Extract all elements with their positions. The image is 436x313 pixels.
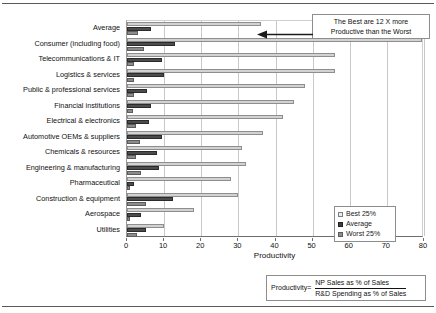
bar-average	[127, 58, 162, 62]
axis-tick-label: 10	[159, 241, 167, 250]
bar-worst	[127, 78, 134, 82]
axis-tick-label: 40	[270, 241, 278, 250]
bar-best	[127, 146, 242, 150]
bar-best	[127, 162, 246, 166]
bar-best	[127, 208, 194, 212]
footnote-prefix: Productivity=	[271, 283, 311, 293]
legend-label: Worst 25%	[346, 229, 380, 239]
bar-worst	[127, 186, 130, 190]
axis-tick-label: 0	[124, 241, 128, 250]
best-vs-worst-callout: The Best are 12 X more Productive than t…	[312, 14, 430, 39]
callout-line-1: The Best are 12 X more	[317, 17, 425, 27]
legend-label: Average	[346, 219, 372, 229]
bar-group	[127, 99, 422, 115]
bar-group	[127, 114, 422, 130]
legend-swatch-best	[338, 212, 343, 217]
bar-average	[127, 104, 151, 108]
bar-average	[127, 197, 173, 201]
bar-group	[127, 52, 422, 68]
bar-best	[127, 53, 335, 57]
category-label: Average	[93, 23, 120, 32]
bar-worst	[127, 202, 146, 206]
bar-average	[127, 42, 175, 46]
bar-worst	[127, 233, 137, 237]
footnote-denominator: R&D Spending as % of Sales	[315, 289, 406, 299]
category-label: Construction & equipment	[36, 194, 120, 203]
bar-worst	[127, 124, 136, 128]
bar-average	[127, 135, 162, 139]
bar-best	[127, 115, 283, 119]
category-label: Aerospace	[85, 209, 120, 218]
category-label: Consumer (including food)	[34, 39, 120, 48]
axis-tick-label: 70	[382, 241, 390, 250]
bar-worst	[127, 31, 138, 35]
legend-swatch-average	[338, 222, 343, 227]
gridline	[424, 21, 425, 236]
chart-legend: Best 25%AverageWorst 25%	[334, 206, 396, 242]
category-label: Financial institutions	[54, 101, 120, 110]
bar-worst	[127, 109, 133, 113]
bar-worst	[127, 171, 141, 175]
bar-group	[127, 130, 422, 146]
category-label: Engineering & manufacturing	[26, 163, 120, 172]
category-label: Automotive OEMs & suppliers	[23, 132, 120, 141]
bar-best	[127, 177, 231, 181]
axis-tick-label: 60	[345, 241, 353, 250]
bar-group	[127, 83, 422, 99]
bottom-divider-rule	[2, 306, 434, 307]
bar-group	[127, 192, 422, 208]
x-axis-title: Productivity	[126, 251, 423, 260]
plot-area	[126, 20, 423, 237]
bar-best	[127, 100, 294, 104]
bar-best	[127, 84, 305, 88]
bar-average	[127, 73, 164, 77]
bar-best	[127, 131, 263, 135]
bar-average	[127, 182, 134, 186]
category-axis-labels: AverageConsumer (including food)Telecomm…	[0, 20, 123, 237]
callout-arrow-icon	[257, 30, 313, 39]
category-label: Utilities	[96, 225, 120, 234]
category-label: Telecommunications & IT	[38, 54, 120, 63]
legend-item: Worst 25%	[338, 229, 392, 239]
productivity-definition-note: Productivity= NP Sales as % of Sales R&D…	[266, 275, 426, 301]
bar-group	[127, 145, 422, 161]
footnote-fraction: NP Sales as % of Sales R&D Spending as %…	[315, 278, 406, 298]
bar-average	[127, 89, 147, 93]
bar-worst	[127, 47, 144, 51]
category-label: Electrical & electronics	[47, 116, 120, 125]
category-label: Pharmaceutical	[70, 178, 120, 187]
bar-group	[127, 161, 422, 177]
callout-line-2: Productive than the Worst	[317, 27, 425, 37]
bar-average	[127, 120, 149, 124]
bar-best	[127, 224, 164, 228]
bar-best	[127, 193, 238, 197]
bar-average	[127, 166, 159, 170]
axis-tick-label: 20	[196, 241, 204, 250]
category-label: Logistics & services	[56, 70, 120, 79]
category-label: Chemicals & resources	[45, 147, 120, 156]
bar-worst	[127, 93, 134, 97]
legend-swatch-worst	[338, 232, 343, 237]
bar-average	[127, 228, 146, 232]
bar-worst	[127, 155, 136, 159]
footnote-numerator: NP Sales as % of Sales	[315, 278, 406, 289]
bar-group	[127, 68, 422, 84]
axis-tick-label: 30	[233, 241, 241, 250]
top-divider-rule	[2, 3, 434, 4]
bar-best	[127, 22, 261, 26]
bar-average	[127, 151, 157, 155]
bar-group	[127, 176, 422, 192]
legend-item: Average	[338, 219, 392, 229]
axis-tick-label: 50	[307, 241, 315, 250]
bar-worst	[127, 62, 134, 66]
bar-average	[127, 213, 141, 217]
axis-tick-label: 80	[419, 241, 427, 250]
bar-average	[127, 27, 151, 31]
category-label: Public & professional services	[23, 85, 120, 94]
legend-item: Best 25%	[338, 209, 392, 219]
legend-label: Best 25%	[346, 209, 376, 219]
bar-worst	[127, 140, 140, 144]
bar-best	[127, 69, 335, 73]
bar-worst	[127, 217, 130, 221]
chart-figure: AverageConsumer (including food)Telecomm…	[0, 0, 436, 313]
